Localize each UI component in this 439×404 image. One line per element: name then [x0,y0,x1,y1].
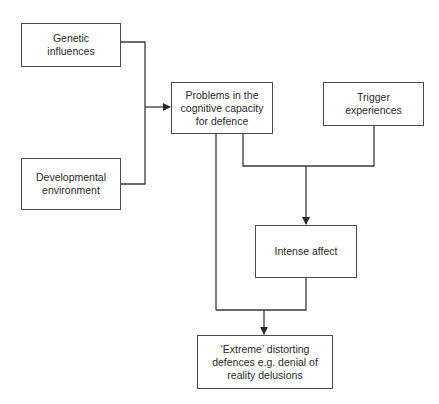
node-label-line: ‘Extreme’ distorting [212,343,318,356]
node-intense-affect: Intense affect [255,225,357,278]
node-label-line: reality delusions [212,369,318,382]
node-extreme-distorting-defences: ‘Extreme’ distorting defences e.g. denia… [197,335,333,389]
node-label-line: experiences [345,104,402,117]
node-label-line: Genetic [47,32,94,45]
node-label-line: cognitive capacity [181,102,264,115]
node-trigger-experiences: Trigger experiences [323,82,424,126]
node-label-line: Developmental [36,171,106,184]
node-developmental-environment: Developmental environment [21,158,121,210]
node-problems-cognitive-capacity: Problems in the cognitive capacity for d… [171,82,273,134]
node-label-line: Intense affect [275,245,338,258]
node-label-line: Problems in the [181,89,264,102]
edge-intense-merge [216,278,306,310]
node-label-line: Trigger [345,91,402,104]
node-label-line: defences e.g. denial of [212,356,318,369]
node-label-line: environment [36,184,106,197]
node-genetic-influences: Genetic influences [21,23,121,67]
node-label-line: influences [47,45,94,58]
edge-genetic-merge [121,42,145,184]
node-label-line: for defence [181,115,264,128]
